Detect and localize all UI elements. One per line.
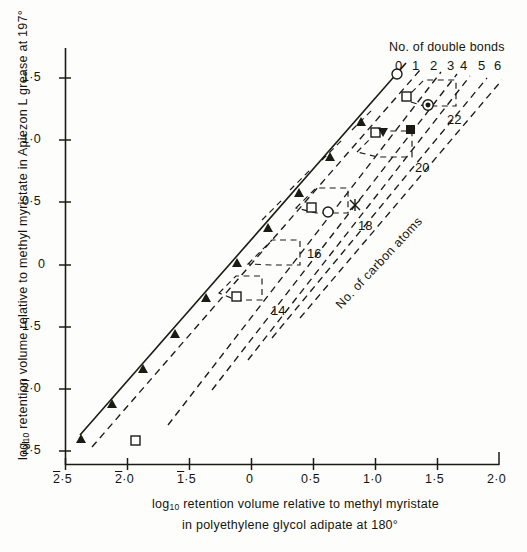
double-bond-label-5: 5	[478, 58, 485, 73]
x-tick-label-6: 1·5	[425, 472, 444, 486]
double-bonds-header: No. of double bonds	[389, 40, 505, 54]
x-tick-label-3: 0	[246, 472, 253, 486]
x-axis-label-line2: in polyethylene glycol adipate at 180°	[182, 518, 398, 532]
y-axis-label-text: retention volume relative to methyl myri…	[16, 10, 30, 429]
x-tick-label-2: 1·5	[177, 472, 196, 486]
x-tick-label-7: 2·0	[487, 472, 506, 486]
series-line-0-double-bonds	[80, 63, 406, 435]
axis-frame	[66, 48, 500, 465]
x-axis-label-sub: 10	[169, 502, 179, 512]
double-bond-label-2: 2	[430, 58, 437, 73]
double-bond-label-3: 3	[447, 58, 454, 73]
double-bond-label-0: 0	[395, 58, 402, 73]
series-line-1-double-bonds	[92, 70, 420, 447]
carbon-series-connectors	[219, 80, 456, 300]
double-bond-label-1: 1	[412, 58, 419, 73]
x-axis-label-text1: retention volume relative to methyl myri…	[183, 497, 439, 511]
carbon-label-22: 22	[447, 112, 461, 127]
x-axis-label-line1: log10 retention volume relative to methy…	[152, 497, 439, 512]
carbon-label-18: 18	[358, 218, 372, 233]
x-tick-label-1: 2·0	[115, 472, 134, 486]
markers-3-double-bonds	[350, 199, 360, 211]
markers-5-double-bonds	[406, 125, 415, 134]
x-axis-ticks	[66, 452, 500, 470]
x-tick-label-4: 0·5	[301, 472, 320, 486]
markers-6-double-bonds	[423, 100, 433, 110]
markers-0-double-bonds	[76, 117, 366, 443]
double-bond-label-6: 6	[494, 58, 501, 73]
x-tick-label-5: 1·0	[363, 472, 382, 486]
carbon-label-20: 20	[415, 160, 429, 175]
double-bond-label-4: 4	[460, 58, 467, 73]
y-axis-label-sub: 10	[21, 433, 31, 443]
carbon-label-14: 14	[271, 303, 285, 318]
x-axis-label-prefix: log	[152, 497, 169, 511]
figure-container: 1·5 1·0 0·5 0 1·5 2·0 2·5 2·5 2·0 1·5 0 …	[0, 0, 527, 552]
chart-canvas	[0, 0, 527, 552]
y-axis-label-prefix: log	[16, 443, 30, 460]
carbon-label-16: 16	[307, 246, 321, 261]
series-line-6-double-bonds	[300, 80, 502, 318]
y-axis-label: log10 retention volume relative to methy…	[16, 10, 31, 460]
y-tick-label-3: 0	[38, 257, 45, 271]
series-lines-dashed	[92, 70, 502, 447]
series-line-3-double-bonds	[212, 74, 457, 390]
x-tick-label-0: 2·5	[53, 472, 72, 486]
